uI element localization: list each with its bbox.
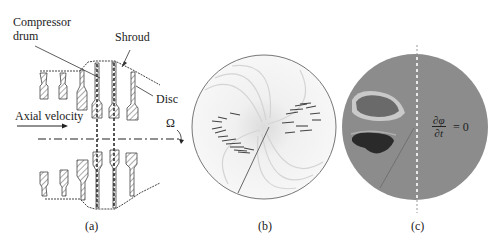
compressor-drum-label: Compressor (13, 16, 71, 29)
shroud-label: Shroud (115, 31, 150, 44)
caption-b: (b) (258, 219, 272, 234)
disc-label: Disc (156, 93, 178, 106)
disc-leader (136, 86, 153, 96)
caption-a: (a) (85, 219, 98, 234)
equation-numerator: ∂φ (432, 114, 446, 127)
equation-denominator: ∂t (435, 127, 444, 139)
panel-b-vector-plot (192, 55, 336, 199)
caption-c: (c) (411, 219, 424, 234)
panel-a-diagram (17, 46, 184, 209)
compressor-drum-label-line2: drum (13, 30, 38, 43)
equation-fraction: ∂φ ∂t (432, 114, 446, 139)
equation-rhs: = 0 (453, 120, 469, 135)
axial-velocity-label: Axial velocity (15, 110, 83, 123)
omega-label: Ω (166, 117, 175, 130)
